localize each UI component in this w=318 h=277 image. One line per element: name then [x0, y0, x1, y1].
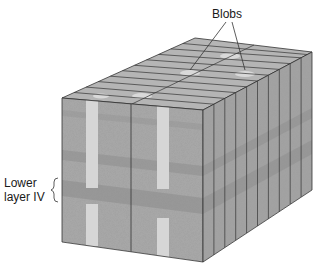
- brace-icon: [51, 178, 58, 202]
- blob-top: [220, 53, 240, 59]
- lower-layer-label-line2: layer IV: [4, 190, 45, 204]
- cortical-block-diagram: [0, 0, 318, 277]
- lower-layer-label-line1: Lower: [4, 176, 37, 190]
- front-face: [62, 98, 203, 262]
- blobs-label: Blobs: [212, 7, 242, 21]
